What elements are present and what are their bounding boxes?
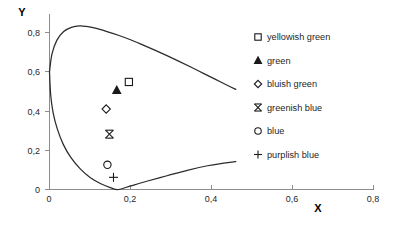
legend-marker-open-diamond (254, 80, 261, 87)
x-ticks-group (50, 185, 374, 190)
y-ticks-group (45, 33, 50, 190)
data-point-bluish-green (102, 105, 110, 113)
data-point-blue (104, 161, 111, 168)
x-tick-label-0: 0 (46, 194, 51, 204)
legend-marker-open-square (255, 34, 261, 40)
x-tick-label-0.4: 0,4 (205, 194, 218, 204)
marker-filled-triangle (113, 86, 121, 93)
x-tick-label-0.8: 0,8 (367, 194, 380, 204)
x-tick-label-0.2: 0,2 (124, 194, 137, 204)
legend-item-greenish-blue[interactable]: greenish blue (254, 103, 322, 113)
y-tick-label-0.6: 0,6 (27, 67, 40, 77)
plot-svg: 0 0,2 0,4 0,6 0,8 0 0,2 0,4 0,6 0,8 Y X … (0, 0, 393, 233)
data-points-group (102, 78, 132, 181)
x-tick-label-0.6: 0,6 (286, 194, 299, 204)
x-axis-title: X (314, 202, 322, 214)
legend-item-green[interactable]: green (255, 56, 291, 66)
legend-item-yellowish-green[interactable]: yellowish green (255, 32, 331, 42)
data-point-purplish-blue (109, 173, 118, 182)
marker-open-square (125, 78, 132, 85)
legend: yellowish greengreenbluish greengreenish… (254, 32, 330, 160)
marker-open-diamond (102, 105, 110, 113)
data-point-greenish-blue (105, 130, 113, 138)
legend-item-blue[interactable]: blue (255, 126, 285, 136)
data-point-yellowish-green (125, 78, 132, 85)
legend-label: greenish blue (267, 103, 322, 113)
y-tick-labels: 0 0,2 0,4 0,6 0,8 (27, 28, 40, 195)
legend-label: blue (267, 126, 284, 136)
legend-marker-open-circle (255, 128, 262, 135)
x-tick-labels: 0 0,2 0,4 0,6 0,8 (46, 194, 379, 204)
legend-item-bluish-green[interactable]: bluish green (254, 79, 317, 89)
spectral-locus-upper-path (50, 26, 236, 90)
legend-marker-filled-triangle (255, 57, 262, 64)
y-tick-label-0.4: 0,4 (27, 107, 40, 117)
legend-marker-plus (254, 151, 262, 159)
legend-label: purplish blue (267, 150, 319, 160)
legend-marker-bowtie-x (254, 104, 261, 111)
y-axis-title: Y (18, 6, 26, 18)
marker-plus (109, 173, 118, 182)
y-tick-label-0.2: 0,2 (27, 146, 40, 156)
legend-label: green (267, 56, 291, 66)
legend-item-purplish-blue[interactable]: purplish blue (254, 150, 319, 160)
marker-open-circle (104, 161, 111, 168)
legend-label: yellowish green (267, 32, 330, 42)
legend-label: bluish green (267, 79, 317, 89)
y-tick-label-0: 0 (35, 185, 40, 195)
y-tick-label-0.8: 0,8 (27, 28, 40, 38)
marker-bowtie-x (105, 130, 113, 138)
purple-line-lower-path (50, 72, 236, 190)
chromaticity-chart: 0 0,2 0,4 0,6 0,8 0 0,2 0,4 0,6 0,8 Y X … (0, 0, 393, 233)
data-point-green (113, 86, 121, 93)
